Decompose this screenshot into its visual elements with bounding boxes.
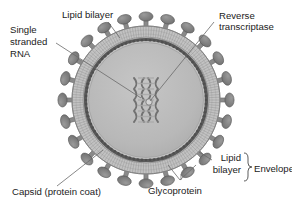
- label-single-stranded-rna-line1: Single: [10, 24, 37, 35]
- label-single-stranded-rna-line3: RNA: [10, 48, 31, 59]
- label-single-stranded-rna-line2: stranded: [10, 36, 47, 47]
- label-glycoprotein: Glycoprotein: [148, 185, 202, 196]
- label-lipid-bilayer-right-line2: bilayer: [213, 164, 242, 175]
- label-lipid-bilayer-top: Lipid bilayer: [62, 9, 114, 20]
- label-envelope: Envelope: [254, 163, 292, 174]
- label-capsid: Capsid (protein coat): [12, 186, 101, 197]
- virus-structure-diagram: Lipid bilayer Reverse transcriptase Sing…: [0, 0, 292, 210]
- label-reverse-transcriptase-line1: Reverse: [219, 10, 255, 21]
- label-reverse-transcriptase-line2: transcriptase: [219, 21, 274, 32]
- label-lipid-bilayer-right-line1: Lipid: [221, 152, 241, 163]
- virus-diagram-canvas: Lipid bilayer Reverse transcriptase Sing…: [0, 0, 292, 210]
